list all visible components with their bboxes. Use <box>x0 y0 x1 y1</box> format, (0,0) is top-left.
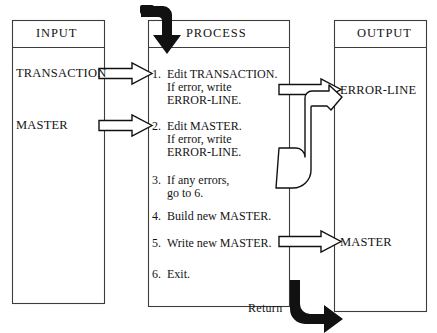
process-step-2-number: 2. <box>152 119 161 134</box>
flow-arrow-master-to-step2 <box>99 115 152 136</box>
process-step-6-line-1: Exit. <box>167 267 190 282</box>
input-item-transaction: TRANSACTION <box>16 66 106 81</box>
return-label: Return <box>248 301 282 316</box>
output-column-box <box>335 21 427 312</box>
process-step-5-line-1: Write new MASTER. <box>167 236 272 251</box>
process-step-3-line-2: go to 6. <box>167 186 203 201</box>
flowchart-canvas <box>0 0 437 333</box>
output-item-error-line: ERROR-LINE <box>340 83 416 98</box>
process-step-2-line-3: ERROR-LINE. <box>167 145 241 160</box>
flow-arrow-step2-to-errorline-bent <box>276 85 342 188</box>
flow-arrow-step5-to-master <box>279 231 341 252</box>
process-step-4-line-1: Build new MASTER. <box>167 209 271 224</box>
process-column-box <box>149 21 290 307</box>
process-step-1-number: 1. <box>152 67 161 82</box>
column-title-input: INPUT <box>36 26 77 41</box>
input-column-box <box>13 21 105 304</box>
process-step-1-line-3: ERROR-LINE. <box>167 93 241 108</box>
process-step-5-number: 5. <box>152 236 161 251</box>
output-item-master: MASTER <box>340 235 392 250</box>
process-step-6-number: 6. <box>152 267 161 282</box>
process-step-3-number: 3. <box>152 173 161 188</box>
flow-arrow-transaction-to-step1 <box>99 63 152 84</box>
entry-elbow-arrow-icon <box>140 5 181 54</box>
column-title-process: PROCESS <box>186 26 247 41</box>
input-item-master: MASTER <box>16 118 68 133</box>
column-title-output: OUTPUT <box>357 26 412 41</box>
process-step-4-number: 4. <box>152 209 161 224</box>
